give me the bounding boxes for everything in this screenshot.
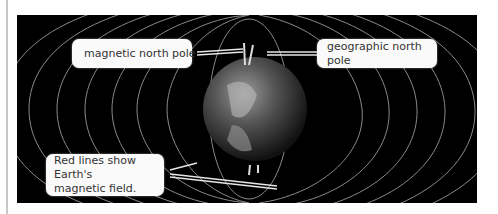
geographic-north-pole-callout: geographic north pole: [317, 39, 437, 68]
geographic-north-pole-label: geographic north pole: [327, 40, 437, 68]
margin-rule: [6, 0, 8, 214]
field-note-line-2: magnetic field.: [54, 182, 136, 196]
earth-globe: [203, 57, 307, 161]
magnetic-field-diagram: magnetic north pole geographic north pol…: [17, 15, 477, 203]
magnetic-north-pole-label: magnetic north pole: [84, 47, 196, 61]
field-note-line-1: Red lines show Earth's: [54, 154, 164, 182]
field-lines-note-callout: Red lines show Earth's magnetic field.: [46, 154, 164, 196]
magnetic-north-pole-callout: magnetic north pole: [72, 39, 192, 68]
